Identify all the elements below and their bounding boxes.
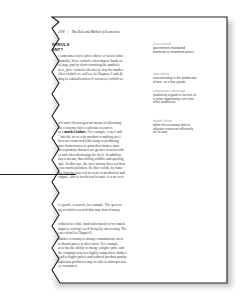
running-head: 1000|The Role and Method of Economics [58, 30, 120, 34]
text-line: eater detail in Chapter 6. [58, 231, 146, 236]
text-line: ey consumers. [58, 264, 146, 269]
text-line: ding to a misallocation of resources (wh… [58, 77, 146, 82]
glossary-entry: market failure when the economy fails to… [153, 120, 221, 135]
body-paragraph: tive and efficient general means of allo… [58, 121, 146, 180]
glossary-entry: comparative advantage producing a good o… [153, 90, 221, 105]
page-number: 1000 [58, 30, 65, 34]
glossary-definition: other producers [153, 101, 221, 105]
section-heading: NTROLS ENT? [52, 43, 69, 52]
callout-pointer-line [0, 174, 76, 175]
body-paragraph: f a good—research, for example. The gove… [58, 203, 146, 212]
body-paragraph: s sometimes force prices above or below … [58, 54, 146, 81]
glossary-entry: price controls government-mandated minim… [153, 43, 221, 54]
glossary-entry: specializing concentrating in the produc… [153, 73, 221, 84]
chapter-title: The Role and Method of Economics [71, 30, 120, 34]
body-paragraph: roduced too little (underallocation) or … [58, 222, 146, 236]
text-line: output—this is inefficient because it is… [58, 175, 146, 180]
body-paragraph: market economy to always communicate acc… [58, 237, 146, 269]
text-line: ng scientific research that may benefit … [58, 208, 146, 213]
glossary-definition: on its own [153, 131, 221, 135]
glossary-definition: minimum or maximum prices [153, 51, 221, 55]
glossary-definition: of one, or a few, goods [153, 81, 221, 85]
running-head-separator: | [68, 30, 69, 34]
page-content: 1000|The Role and Method of Economics NT… [50, 16, 228, 284]
bold-key-term: market failure. [64, 130, 87, 134]
section-heading-line: ENT? [52, 48, 69, 53]
torn-book-page: 1000|The Role and Method of Economics NT… [50, 16, 228, 284]
